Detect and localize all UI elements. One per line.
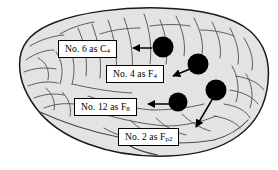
electrode-f4 (188, 54, 209, 75)
callout-fp2-subscript: p2 (165, 136, 172, 143)
callout-f4-subscript: 4 (153, 73, 157, 80)
callout-f4-prefix: No. 4 as F (113, 69, 153, 79)
callout-label-c4: No. 6 as C4 (58, 40, 117, 58)
electrode-fp2 (206, 80, 227, 101)
callout-f8-prefix: No. 12 as F (81, 102, 126, 112)
callout-c4-subscript: 4 (107, 48, 111, 55)
electrode-f8 (169, 93, 188, 112)
electrode-c4 (153, 37, 174, 58)
callout-fp2-prefix: No. 2 as F (125, 132, 165, 142)
brain-electrode-diagram: No. 6 as C4 No. 4 as F4 No. 12 as F8 No.… (0, 0, 278, 170)
callout-label-f8: No. 12 as F8 (74, 98, 137, 116)
callout-c4-prefix: No. 6 as C (65, 44, 107, 54)
callout-label-f4: No. 4 as F4 (106, 65, 164, 83)
callout-label-fp2: No. 2 as Fp2 (118, 128, 179, 146)
callout-f8-subscript: 8 (126, 106, 130, 113)
